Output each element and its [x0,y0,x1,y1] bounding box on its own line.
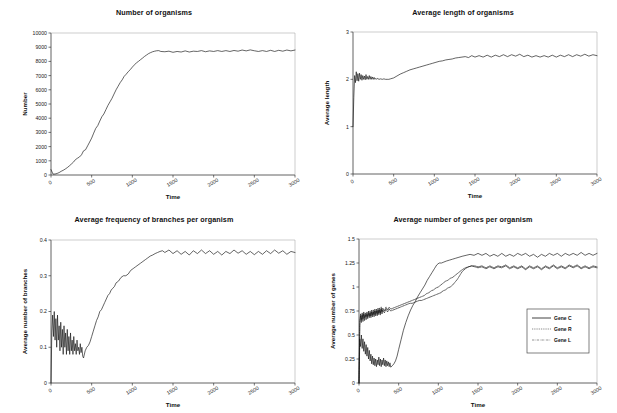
y-tick-label: 1.25 [345,260,355,266]
y-tick-label: 0 [346,171,349,177]
y-tick-label: 0 [44,380,47,386]
y-tick-label: 9000 [35,44,47,50]
x-axis-title: Time [468,192,483,199]
x-axis-title: Time [166,401,181,408]
x-tick-label: 2500 [247,385,260,396]
x-tick-label: 500 [85,385,96,395]
y-tick-label: 4000 [35,115,47,121]
y-tick-label: 1 [346,124,349,130]
axis-frame [51,33,295,175]
x-axis-title: Time [471,401,486,408]
chart-panel-number-of-organisms: Number of organisms010002000300040005000… [0,0,308,206]
y-tick-label: 0 [44,172,47,178]
y-tick-label: 1000 [35,158,47,164]
x-tick-label: 0 [349,178,355,185]
y-tick-label: 7000 [35,73,47,79]
axis-frame-outer [353,32,597,174]
x-tick-label: 1000 [125,177,138,188]
x-tick-label: 3000 [590,176,603,187]
y-tick-label: 6000 [35,87,47,93]
x-tick-label: 2000 [206,177,219,188]
axis-frame-outer [51,33,295,175]
x-tick-label: 0 [47,179,53,186]
series-line-average-length [353,54,597,126]
x-tick-label: 1500 [166,385,179,396]
y-tick-label: 0 [352,380,355,386]
axis-frame [51,240,295,383]
legend-label: Gene R [554,326,572,332]
y-tick-label: 2000 [35,144,47,150]
legend-label: Gene L [554,337,571,343]
x-tick-label: 1500 [471,385,484,396]
x-tick-label: 2000 [508,176,521,187]
plot-area-average-number-of-genes: 00.250.50.7511.251.505001000150020002500… [309,207,617,413]
x-tick-label: 500 [387,176,398,186]
x-tick-label: 1500 [468,176,481,187]
y-tick-label: 0.25 [345,356,355,362]
x-tick-label: 2000 [510,385,523,396]
y-tick-label: 0.2 [40,308,47,314]
plot-area-average-frequency-of-branches: 00.10.20.30.4050010001500200025003000Tim… [0,207,308,413]
legend-label: Gene C [554,315,572,321]
y-axis-title: Average length [323,81,330,126]
x-tick-label: 1000 [431,385,444,396]
plot-area-average-length-of-organisms: 0123050010001500200025003000TimeAverage … [309,0,617,206]
y-tick-label: 1 [352,284,355,290]
y-axis-title: Average number of genes [329,273,336,349]
x-tick-label: 3000 [288,177,301,188]
x-tick-label: 2500 [550,385,563,396]
x-tick-label: 500 [392,385,403,395]
x-tick-label: 1500 [166,177,179,188]
y-tick-label: 3000 [35,129,47,135]
x-tick-label: 0 [355,387,361,394]
axis-frame-outer [51,240,295,383]
series-line-average-number-of-branches [51,250,295,383]
y-tick-label: 8000 [35,58,47,64]
x-tick-label: 3000 [590,385,603,396]
x-tick-label: 2000 [206,385,219,396]
y-tick-label: 3 [346,29,349,35]
x-tick-label: 0 [47,387,53,394]
y-tick-label: 0.5 [348,332,355,338]
chart-panel-average-number-of-genes: Average number of genes per organism00.2… [309,207,617,413]
series-line-number [51,50,295,174]
x-tick-label: 1000 [125,385,138,396]
chart-panel-average-length-of-organisms: Average length of organisms0123050010001… [309,0,617,206]
y-tick-label: 0.75 [345,308,355,314]
y-tick-label: 1.5 [348,236,355,242]
chart-panel-average-frequency-of-branches: Average frequency of branches per organi… [0,207,308,413]
x-tick-label: 3000 [288,385,301,396]
axis-frame [353,32,597,174]
x-tick-label: 2500 [247,177,260,188]
y-tick-label: 0.4 [40,237,47,243]
plot-area-number-of-organisms: 0100020003000400050006000700080009000100… [0,0,308,206]
figure-canvas: Number of organisms010002000300040005000… [0,0,617,413]
y-axis-title: Number [21,92,28,116]
y-tick-label: 5000 [35,101,47,107]
y-axis-title: Average number of branches [21,268,28,354]
x-axis-title: Time [166,193,181,200]
y-tick-label: 0.3 [40,273,47,279]
y-tick-label: 10000 [33,30,48,36]
x-tick-label: 1000 [427,176,440,187]
x-tick-label: 500 [85,177,96,187]
y-tick-label: 0.1 [40,344,47,350]
x-tick-label: 2500 [549,176,562,187]
y-tick-label: 2 [346,76,349,82]
